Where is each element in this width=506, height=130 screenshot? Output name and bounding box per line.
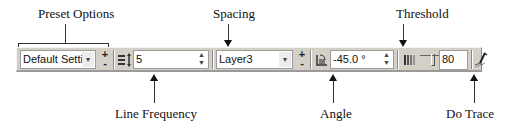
- layer-add-remove: + -: [296, 50, 308, 69]
- callout-arrow-line-frequency: [150, 74, 158, 81]
- callout-bracket-preset: [18, 43, 109, 44]
- callout-line-line-frequency: [154, 81, 155, 103]
- chevron-down-icon[interactable]: ▾: [82, 52, 94, 67]
- threshold-value: 80: [442, 53, 454, 65]
- callout-arrow-spacing: [224, 40, 232, 47]
- remove-layer-button[interactable]: -: [296, 59, 308, 68]
- angle-spinner[interactable]: ▲▼: [381, 51, 392, 68]
- callout-threshold: Threshold: [396, 6, 449, 22]
- callout-line-threshold: [403, 24, 404, 40]
- angle-icon: [314, 52, 330, 68]
- layer-value: Layer3: [219, 53, 253, 65]
- remove-preset-button[interactable]: -: [99, 59, 111, 68]
- trace-pen-icon[interactable]: [473, 51, 489, 69]
- slider-thumb[interactable]: [431, 54, 435, 66]
- trace-toolbar: Default Settin ▾ + - 5 ▲▼ Layer3 ▾ + - -…: [16, 47, 482, 72]
- line-frequency-value: 5: [136, 53, 142, 65]
- callout-angle: Angle: [320, 106, 352, 122]
- callout-line-spacing: [228, 24, 229, 40]
- line-frequency-input[interactable]: 5 ▲▼: [133, 50, 209, 69]
- separator: [310, 50, 312, 69]
- layer-dropdown[interactable]: Layer3 ▾: [216, 50, 293, 69]
- preset-value: Default Settin: [23, 53, 89, 65]
- preset-dropdown[interactable]: Default Settin ▾: [20, 50, 96, 69]
- angle-input[interactable]: -45.0 ° ▲▼: [330, 50, 394, 69]
- callout-arrow-do-trace: [470, 74, 478, 81]
- callout-do-trace: Do Trace: [446, 106, 494, 122]
- threshold-value-field[interactable]: 80: [439, 50, 468, 70]
- callout-line-do-trace: [474, 81, 475, 103]
- angle-value: -45.0 °: [333, 53, 366, 65]
- preset-add-remove: + -: [99, 50, 111, 69]
- line-frequency-icon: [117, 52, 133, 68]
- separator: [212, 50, 214, 69]
- callout-arrow-threshold: [399, 40, 407, 47]
- callout-arrow-angle: [329, 74, 337, 81]
- separator: [113, 50, 115, 69]
- chevron-down-icon[interactable]: ▾: [279, 52, 291, 67]
- callout-preset-options: Preset Options: [38, 6, 114, 22]
- callout-line-angle: [333, 81, 334, 103]
- line-frequency-spinner[interactable]: ▲▼: [196, 51, 207, 68]
- threshold-icon: [402, 52, 418, 68]
- callout-spacing: Spacing: [213, 6, 255, 22]
- callout-line-preset: [65, 24, 66, 43]
- callout-line-frequency: Line Frequency: [115, 106, 197, 122]
- separator: [397, 50, 399, 69]
